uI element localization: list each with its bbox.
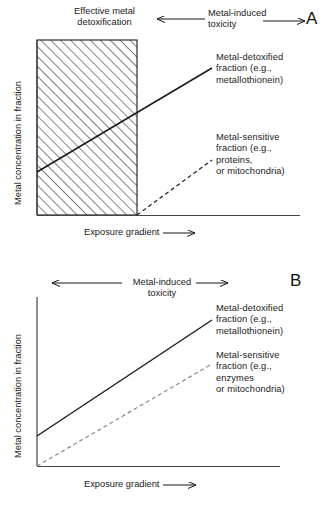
series-sensitive-line (137, 160, 212, 215)
effective-detoxification-label: Effective metal detoxification (47, 6, 162, 29)
panel-b-x-axis-label: Exposure gradient (84, 480, 159, 489)
panel-a-letter: A (306, 10, 317, 27)
panel-b-detoxified-annotation: Metal-detoxified fraction (e.g., metallo… (216, 303, 328, 337)
panel-a-sensitive-annotation: Metal-sensitive fraction (e.g., proteins… (216, 132, 328, 178)
metal-induced-toxicity-label: Metal-induced toxicity (208, 8, 268, 31)
panel-b-series-detoxified-line (37, 320, 212, 436)
panel-a: Effective metal detoxification Metal-ind… (0, 0, 329, 250)
panel-b-metal-induced-toxicity-label: Metal-induced toxicity (124, 277, 200, 300)
panel-b-y-axis-label: Metal concentration in fraction (14, 334, 23, 458)
figure-container: Effective metal detoxification Metal-ind… (0, 0, 329, 505)
panel-a-y-axis-label: Metal concentration in fraction (14, 81, 23, 205)
panel-a-detoxified-annotation: Metal-detoxified fraction (e.g., metallo… (216, 52, 328, 86)
panel-b: Metal-induced toxicity B Metal concentra… (0, 250, 329, 505)
panel-b-sensitive-annotation: Metal-sensitive fraction (e.g., enzymes … (216, 350, 328, 396)
detoxification-region (37, 40, 137, 215)
panel-a-plot (0, 0, 329, 250)
panel-b-letter: B (290, 272, 301, 289)
panel-a-x-axis-label: Exposure gradient (84, 228, 159, 237)
panel-b-series-sensitive-line (37, 364, 212, 466)
